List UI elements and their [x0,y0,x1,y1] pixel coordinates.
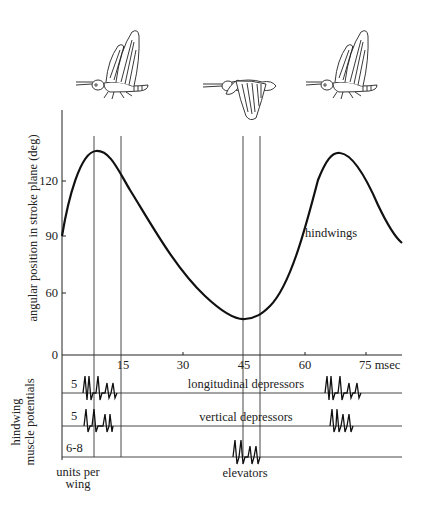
burst-longitudinal-2 [325,376,361,400]
x-tick-45: 45 [238,358,251,372]
x-tick-15: 15 [117,358,130,372]
row1-units: 5 [71,377,77,391]
x-tick-30: 30 [177,358,190,372]
row1-label: longitudinal depressors [188,377,304,391]
y-tick-60: 60 [46,286,59,300]
insect-wings-down-icon [203,80,276,120]
y-ticks [62,181,66,293]
burst-vertical-1 [84,409,113,432]
row2-units: 5 [71,409,77,423]
burst-elevators [233,440,260,464]
row3-label: elevators [222,466,267,480]
insect-wings-up-icon [76,31,148,99]
burst-vertical-2 [330,409,353,432]
y-axis-label: angular position in stroke plane (deg) [26,134,40,321]
figure: 120 90 60 0 15 30 45 60 75 msec angular … [0,0,424,508]
vertical-markers [94,136,260,457]
y-tick-90: 90 [46,229,59,243]
y-tick-120: 120 [39,174,58,188]
x-tick-75: 75 msec [359,358,401,372]
burst-longitudinal-1 [83,376,117,400]
curve-label-hindwings: hindwings [305,226,357,240]
lower-panel-label-line2: muscle potentials [23,378,37,465]
y-tick-0: 0 [52,348,58,362]
units-per-wing-line2: wing [66,477,92,491]
lower-panel-label-line1: hindwing [9,398,23,446]
row2-label: vertical depressors [199,410,293,424]
insect-wings-up-icon [306,31,377,99]
x-tick-60: 60 [299,358,312,372]
row3-units: 6-8 [66,441,83,455]
muscle-row-lines [62,393,402,457]
